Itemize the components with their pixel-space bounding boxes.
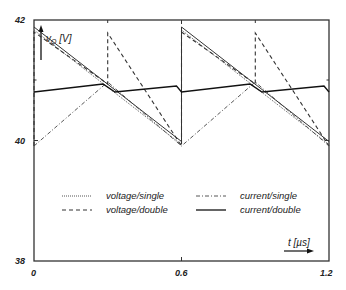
chart: 42 40 38 0 0.6 1.2 vQ [V] t [µs] voltage…: [0, 0, 346, 290]
x-arrowhead-icon: [307, 249, 314, 254]
y-tick-38: 38: [15, 256, 25, 266]
series-group: [34, 27, 329, 146]
legend-label-voltage-single: voltage/single: [106, 190, 164, 201]
legend: voltage/single voltage/double current/si…: [62, 190, 301, 215]
x-tick-0-6: 0.6: [175, 268, 189, 278]
x-axis-label: t [µs]: [288, 237, 310, 248]
legend-label-current-double: current/double: [240, 204, 301, 215]
legend-label-current-single: current/single: [240, 190, 297, 201]
x-tick-0: 0: [31, 268, 36, 278]
legend-label-voltage-double: voltage/double: [106, 204, 168, 215]
x-tick-1-2: 1.2: [320, 268, 333, 278]
y-tick-40: 40: [14, 136, 25, 146]
y-tick-42: 42: [14, 15, 25, 25]
